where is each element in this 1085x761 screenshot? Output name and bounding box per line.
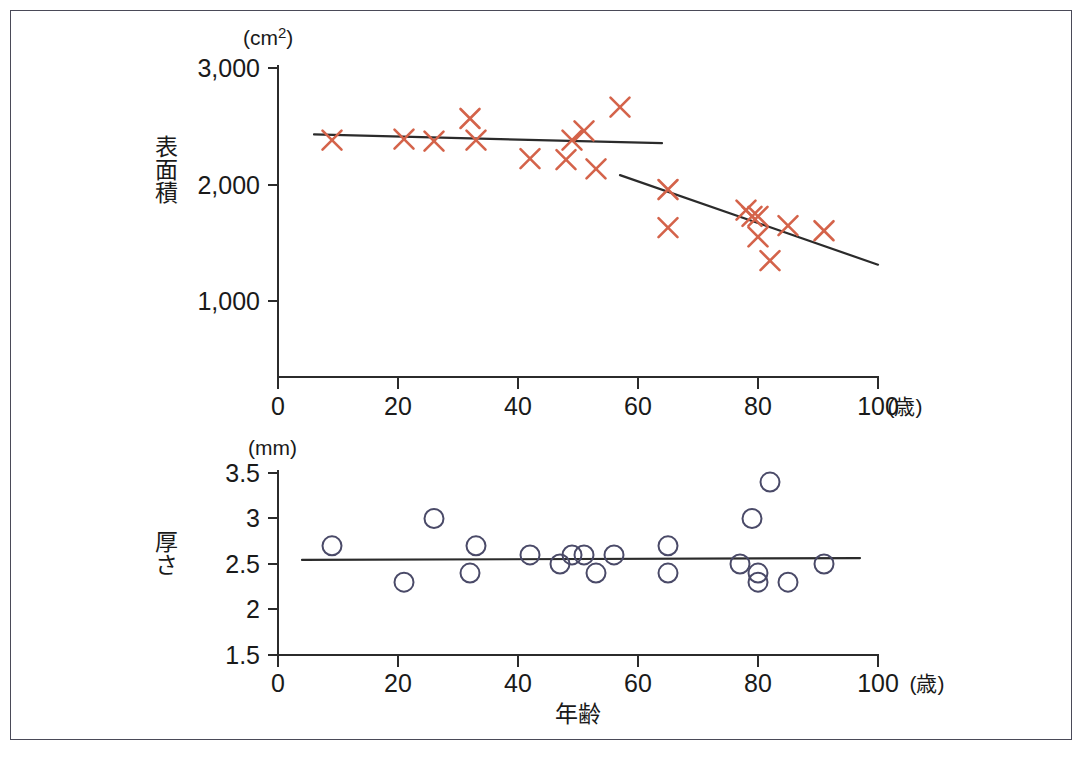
top-chart-xticklabel-20: 20 [384,392,412,420]
top-chart-xticklabel-60: 60 [624,392,652,420]
bottom-chart-xticklabel-100: 100 [857,669,899,697]
bottom-chart-x-unit: (歳) [910,672,945,695]
data-point-circle-marker [521,545,540,564]
bottom-chart-x-axis-name: 年齢 [555,701,601,727]
data-point-x-marker [587,159,606,178]
data-point-x-marker [461,109,480,128]
top-chart-x-unit: (歳) [888,395,923,418]
bottom-chart-yticklabel-3.5: 3.5 [225,459,260,487]
data-point-x-marker [467,131,486,150]
data-point-x-marker [323,131,342,150]
bottom-chart-yticklabel-1.5: 1.5 [225,641,260,669]
bottom-chart-yticklabel-2: 2 [246,595,260,623]
data-point-circle-marker [659,564,678,583]
data-point-circle-marker [323,536,342,555]
chart-surface-area: (cm2) 表面積 3,000 2,000 1,000 0 20 40 [152,24,923,420]
top-chart-y-axis-name: 表面積 [152,135,179,204]
chart-thickness: (mm) 厚さ 3.5 3 2.5 2 1.5 0 20 40 60 80 [152,436,945,727]
data-point-x-marker [395,130,414,149]
data-point-x-marker [557,150,576,169]
data-point-circle-marker [425,509,444,528]
bottom-chart-y-unit: (mm) [248,436,297,459]
data-point-circle-marker [731,555,750,574]
data-point-circle-marker [779,573,798,592]
data-point-circle-marker [575,545,594,564]
top-chart-points [323,98,834,270]
bottom-chart-xticklabel-80: 80 [744,669,772,697]
data-point-circle-marker [587,564,606,583]
data-point-circle-marker [743,509,762,528]
data-point-x-marker [575,121,594,140]
data-point-x-marker [749,227,768,246]
top-chart-yticklabel-2000: 2,000 [197,171,260,199]
regression-line-younger-trend [314,134,662,143]
data-point-x-marker [779,216,798,235]
data-point-circle-marker [461,564,480,583]
data-point-circle-marker [605,545,624,564]
bottom-chart-xticklabel-20: 20 [384,669,412,697]
data-point-x-marker [611,98,630,117]
bottom-chart-y-axis-name: 厚さ [152,530,179,576]
data-point-x-marker [521,149,540,168]
top-chart-xticklabel-40: 40 [504,392,532,420]
data-point-circle-marker [551,555,570,574]
bottom-chart-xticklabel-40: 40 [504,669,532,697]
top-chart-fit-lines [314,134,878,264]
data-point-x-marker [761,251,780,270]
data-point-x-marker [815,221,834,240]
data-point-circle-marker [761,473,780,492]
bottom-chart-xticklabel-60: 60 [624,669,652,697]
bottom-chart-yticklabel-3: 3 [246,504,260,532]
top-chart-xticklabel-0: 0 [271,392,285,420]
top-chart-y-unit: (cm2) [243,24,293,49]
top-chart-yticklabel-3000: 3,000 [197,54,260,82]
bottom-chart-points [323,473,834,592]
data-point-x-marker [425,132,444,151]
top-chart-xticklabel-80: 80 [744,392,772,420]
bottom-chart-xticklabel-0: 0 [271,669,285,697]
charts-container: (cm2) 表面積 3,000 2,000 1,000 0 20 40 [0,0,1085,761]
data-point-circle-marker [395,573,414,592]
data-point-circle-marker [467,536,486,555]
data-point-circle-marker [659,536,678,555]
data-point-x-marker [659,218,678,237]
top-chart-yticklabel-1000: 1,000 [197,287,260,315]
figure-root: (cm2) 表面積 3,000 2,000 1,000 0 20 40 [0,0,1085,761]
bottom-chart-yticklabel-2.5: 2.5 [225,550,260,578]
